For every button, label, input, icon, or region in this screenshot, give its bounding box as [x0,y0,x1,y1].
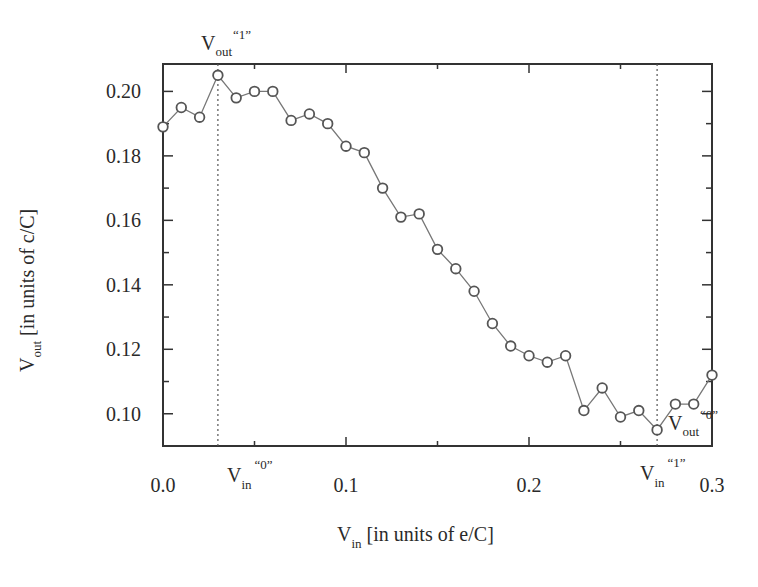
data-point-marker [360,148,370,158]
x-tick-label: 0.0 [151,474,176,496]
data-point-marker [707,370,717,380]
x-axis-label: Vin [in units of e/C] [337,523,494,551]
data-point-marker [195,112,205,122]
data-series-markers [158,70,717,434]
data-point-marker [396,212,406,222]
data-point-marker [305,109,315,119]
y-axis-ticks: 0.100.120.140.160.180.20 [106,80,712,424]
annotation-vin-0: Vin“0” [227,457,273,492]
data-point-marker [323,119,333,129]
data-point-marker [231,93,241,103]
x-tick-label: 0.1 [334,474,359,496]
data-point-marker [451,264,461,274]
y-tick-label: 0.12 [106,338,141,360]
data-point-marker [579,406,589,416]
data-point-marker [597,383,607,393]
annotation-vout-1: Vout“1” [201,27,251,59]
data-point-marker [543,357,553,367]
data-point-marker [634,406,644,416]
data-point-marker [469,286,479,296]
data-point-marker [268,87,278,97]
data-point-marker [433,245,443,255]
annotation-vin-1: Vin“1” [640,455,686,490]
x-tick-label: 0.2 [517,474,542,496]
y-tick-label: 0.14 [106,274,141,296]
data-point-marker [158,122,168,132]
x-axis-ticks: 0.00.10.20.3 [151,64,725,496]
data-point-marker [213,70,223,80]
data-point-marker [616,412,626,422]
data-point-marker [286,116,296,126]
data-point-marker [652,425,662,435]
data-point-marker [250,87,260,97]
annotation-vout-0: Vout“0” [668,407,718,439]
data-point-marker [378,183,388,193]
data-point-marker [689,399,699,409]
y-tick-label: 0.20 [106,80,141,102]
chart-canvas: 0.00.10.20.3 0.100.120.140.160.180.20 Vo… [0,0,758,587]
data-point-marker [561,351,571,361]
data-point-marker [488,319,498,329]
data-point-marker [506,341,516,351]
y-axis-label: Vout [in units of c/C] [16,209,44,372]
data-point-marker [414,209,424,219]
data-point-marker [524,351,534,361]
y-tick-label: 0.18 [106,145,141,167]
data-point-marker [341,141,351,151]
y-tick-label: 0.10 [106,403,141,425]
x-tick-label: 0.3 [700,474,725,496]
y-tick-label: 0.16 [106,209,141,231]
data-point-marker [671,399,681,409]
data-point-marker [177,103,187,113]
